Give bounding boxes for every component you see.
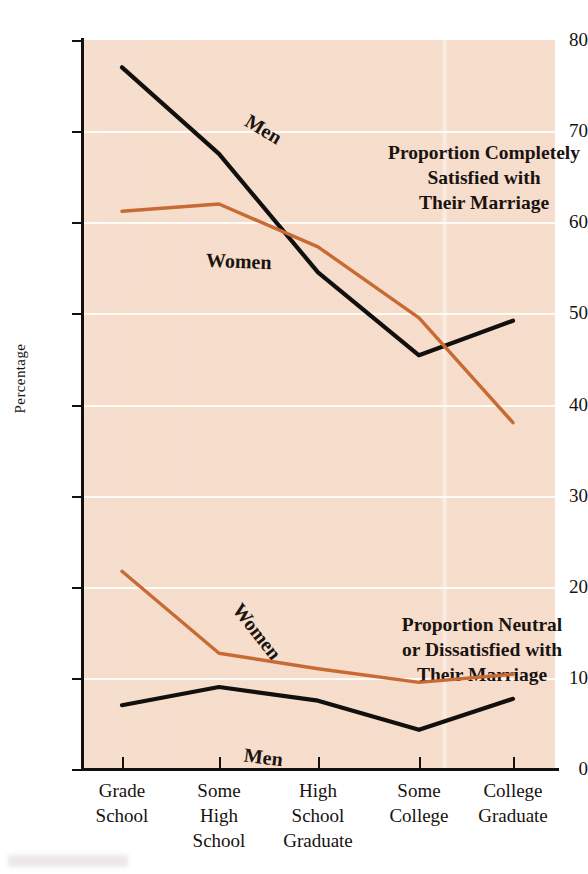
gridline-60	[84, 222, 555, 224]
x-tick-3	[419, 757, 421, 770]
gridline-30	[84, 496, 555, 498]
annotation-neutral-line1: Proportion Neutral	[332, 612, 588, 637]
y-tick-label-80: 80	[540, 30, 588, 49]
series-label-women-neutral: Women	[228, 599, 286, 665]
x-tick-0	[122, 757, 124, 770]
annotation-satisfied-line1: Proportion Completely	[334, 140, 588, 165]
y-tick-10	[72, 678, 82, 680]
y-tick-label-70: 70	[540, 121, 588, 140]
y-tick-0	[72, 769, 82, 771]
y-tick-label-60: 60	[540, 212, 588, 231]
x-tick-label-4-line1: Graduate	[448, 803, 578, 828]
x-axis-line	[81, 768, 559, 771]
x-tick-label-4-line0: College	[448, 778, 578, 803]
y-tick-80	[72, 40, 82, 42]
y-tick-label-40: 40	[540, 395, 588, 414]
y-tick-70	[72, 131, 82, 133]
series-label-men-satisfied: Men	[241, 110, 286, 150]
series-label-women-satisfied: Women	[206, 249, 272, 274]
annotation-satisfied-line2: Satisfied with	[334, 165, 588, 190]
x-tick-2	[318, 757, 320, 770]
x-tick-label-2-line2: Graduate	[253, 828, 383, 853]
line-chart-figure: Proportion Completely Satisfied with The…	[0, 0, 588, 874]
y-axis-title: Percentage	[12, 299, 29, 459]
plot-area: Proportion Completely Satisfied with The…	[84, 40, 555, 769]
x-tick-1	[219, 757, 221, 770]
x-tick-label-4: CollegeGraduate	[448, 778, 578, 828]
y-tick-label-0: 0	[540, 759, 588, 778]
gridline-50	[84, 313, 555, 315]
annotation-satisfied: Proportion Completely Satisfied with The…	[334, 140, 588, 215]
y-tick-label-30: 30	[540, 486, 588, 505]
page-smudge	[8, 855, 128, 867]
annotation-neutral-line2: or Dissatisfied with	[332, 637, 588, 662]
y-tick-40	[72, 405, 82, 407]
gridline-70	[84, 131, 555, 133]
y-tick-60	[72, 222, 82, 224]
gridline-20	[84, 587, 555, 589]
y-tick-20	[72, 587, 82, 589]
x-tick-4	[513, 757, 515, 770]
annotation-satisfied-line3: Their Marriage	[334, 190, 588, 215]
y-tick-label-10: 10	[540, 668, 588, 687]
y-tick-label-20: 20	[540, 577, 588, 596]
y-tick-label-50: 50	[540, 303, 588, 322]
y-tick-30	[72, 496, 82, 498]
y-tick-50	[72, 313, 82, 315]
gridline-40	[84, 405, 555, 407]
